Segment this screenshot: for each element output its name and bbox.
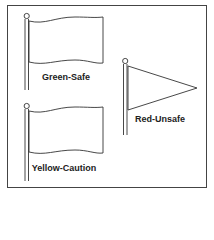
green-safe-label: Green-Safe (42, 72, 90, 82)
red-unsafe-label: Red-Unsafe (135, 114, 185, 124)
yellow-caution-label: Yellow-Caution (32, 163, 97, 173)
